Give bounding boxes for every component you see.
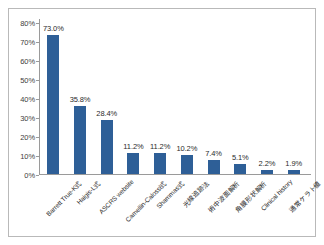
y-axis-tick-label: 60%: [20, 57, 35, 66]
x-label-slot: 通常ケラト値: [281, 176, 308, 238]
bar-slot: 11.2%: [147, 23, 174, 174]
bar-slot: 5.1%: [227, 23, 254, 174]
x-axis-line: [39, 174, 311, 175]
y-axis-tick-mark: [36, 61, 39, 62]
bar-value-label: 2.2%: [259, 159, 276, 168]
x-label-slot: 光線追跡法: [174, 176, 201, 238]
x-label-slot: Shammas式: [147, 176, 174, 238]
bar[interactable]: [127, 153, 139, 174]
chart-frame: 80%70%60%50%40%30%20%10%0% 73.0%35.8%28.…: [8, 8, 316, 237]
bar-value-label: 10.2%: [176, 144, 197, 153]
bar-value-label: 73.0%: [43, 24, 64, 33]
bar-slot: 10.2%: [174, 23, 201, 174]
x-axis-category-labels: Barrett True-K式Haigis-L式ASCRS websiteCam…: [40, 176, 308, 238]
y-axis-tick-mark: [36, 80, 39, 81]
y-axis-tick-label: 50%: [20, 76, 35, 85]
y-axis-tick-label: 10%: [20, 152, 35, 161]
bar[interactable]: [208, 160, 220, 174]
bar-slot: 73.0%: [40, 23, 67, 174]
x-label-slot: Haigis-L式: [67, 176, 94, 238]
bar-value-label: 1.9%: [285, 159, 302, 168]
y-axis-tick-label: 0%: [24, 171, 35, 180]
y-axis-tick-mark: [36, 156, 39, 157]
bar[interactable]: [288, 170, 300, 174]
bar-value-label: 28.4%: [96, 109, 117, 118]
y-axis-tick-mark: [36, 42, 39, 43]
x-label-slot: 角膜形状解析: [228, 176, 255, 238]
bar-slot: 28.4%: [93, 23, 120, 174]
x-label-slot: Barrett True-K式: [40, 176, 67, 238]
y-axis-tick-mark: [36, 118, 39, 119]
bar-value-label: 35.8%: [70, 95, 91, 104]
y-axis-tick-label: 40%: [20, 95, 35, 104]
y-axis-tick-mark: [36, 99, 39, 100]
bar[interactable]: [154, 153, 166, 174]
bar-slot: 35.8%: [67, 23, 94, 174]
bar-slot: 7.4%: [200, 23, 227, 174]
bar[interactable]: [47, 35, 59, 174]
bar[interactable]: [101, 120, 113, 174]
x-label-slot: Camellin-Calossi式: [120, 176, 147, 238]
x-label-slot: ASCRS website: [94, 176, 121, 238]
bar[interactable]: [181, 155, 193, 174]
x-axis-category-label: 通常ケラト値: [286, 178, 322, 214]
y-axis-tick-label: 30%: [20, 114, 35, 123]
y-axis-tick-mark: [36, 23, 39, 24]
bar[interactable]: [234, 164, 246, 174]
bar[interactable]: [74, 106, 86, 174]
bar-slot: 1.9%: [280, 23, 307, 174]
bar-value-label: 11.2%: [123, 142, 143, 151]
bar-value-label: 7.4%: [205, 149, 222, 158]
bar[interactable]: [261, 170, 273, 174]
y-axis-tick-mark: [36, 137, 39, 138]
bar-series: 73.0%35.8%28.4%11.2%11.2%10.2%7.4%5.1%2.…: [40, 23, 307, 174]
plot-area: 80%70%60%50%40%30%20%10%0% 73.0%35.8%28.…: [39, 23, 307, 175]
x-label-slot: Clinical history: [254, 176, 281, 238]
y-axis-tick-mark: [36, 175, 39, 176]
bar-slot: 11.2%: [120, 23, 147, 174]
bar-slot: 2.2%: [254, 23, 281, 174]
y-axis-tick-label: 70%: [20, 38, 35, 47]
x-label-slot: 術中波面解析: [201, 176, 228, 238]
bar-value-label: 5.1%: [232, 153, 249, 162]
bar-value-label: 11.2%: [150, 142, 170, 151]
y-axis-tick-label: 20%: [20, 133, 35, 142]
y-axis-tick-label: 80%: [20, 19, 35, 28]
